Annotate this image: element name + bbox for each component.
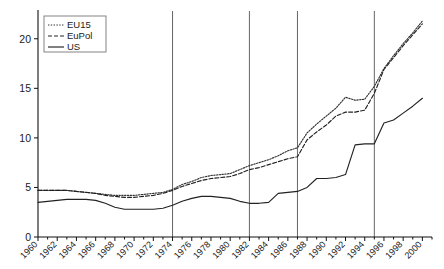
x-tick-label: 1974 [153,239,174,260]
x-tick-label: 1986 [268,239,289,260]
x-tick-label: 1990 [306,239,327,260]
x-tick-label: 1966 [76,239,97,260]
x-tick-label: 1980 [210,239,231,260]
y-tick-label: 5 [25,181,31,193]
x-tick-label: 1984 [249,239,270,260]
x-tick-label: 1992 [326,239,347,260]
y-tick-label: 10 [19,132,31,144]
x-tick-label: 1972 [133,239,154,260]
x-tick-label: 1998 [383,239,404,260]
line-chart: 0510152019601962196419661968197019721974… [0,0,444,269]
chart-container: 0510152019601962196419661968197019721974… [0,0,444,269]
y-tick-label: 15 [19,82,31,94]
x-tick-label: 1982 [230,239,251,260]
series-line-us [38,98,422,209]
x-tick-label: 1970 [114,239,135,260]
legend-label-us: US [67,41,80,52]
legend-label-eupol: EuPol [67,30,92,41]
legend-label-eu15: EU15 [67,19,91,30]
x-tick-label: 1960 [18,239,39,260]
x-tick-label: 1996 [364,239,385,260]
y-tick-label: 20 [19,33,31,45]
x-tick-label: 1978 [191,239,212,260]
x-tick-label: 1968 [95,239,116,260]
x-tick-label: 1964 [57,239,78,260]
x-tick-label: 2000 [403,239,424,260]
x-tick-label: 1962 [37,239,58,260]
x-tick-label: 1988 [287,239,308,260]
x-tick-label: 1994 [345,239,366,260]
x-tick-label: 1976 [172,239,193,260]
